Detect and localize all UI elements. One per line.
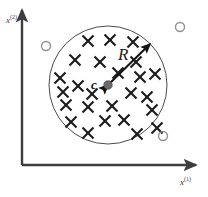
x-axis-label-superscript: (1) — [184, 176, 191, 182]
inlier-point — [83, 102, 94, 113]
inlier-point — [147, 105, 158, 116]
inlier-point — [66, 117, 77, 128]
inlier-point — [83, 36, 94, 47]
y-axis-label-superscript: (2) — [10, 14, 17, 20]
inlier-point — [128, 37, 139, 48]
figure-canvas: x(2) x(1) R c — [0, 0, 208, 197]
radius-label: R — [118, 46, 128, 63]
center-label: c — [91, 78, 97, 91]
inlier-point — [135, 72, 146, 83]
outlier-point — [42, 42, 51, 51]
inlier-point — [95, 57, 106, 68]
inlier-point — [142, 92, 153, 103]
radius-arrow-group — [108, 44, 150, 85]
inlier-point — [55, 73, 66, 84]
outlier-point — [176, 23, 185, 32]
inlier-point — [119, 115, 130, 126]
inlier-point — [61, 100, 72, 111]
inlier-point — [150, 69, 161, 80]
figure-svg — [0, 0, 208, 197]
inlier-point — [73, 81, 84, 92]
ball-center-dot — [104, 81, 112, 89]
x-axis-label: x(1) — [180, 176, 191, 187]
inlier-point — [58, 87, 69, 98]
radius-arrow-line — [108, 44, 150, 85]
inlier-point — [113, 68, 124, 79]
inlier-point — [105, 35, 116, 46]
ball-center-group — [104, 81, 112, 89]
inlier-point — [107, 101, 118, 112]
inlier-point — [70, 55, 81, 66]
inlier-point — [83, 128, 94, 139]
inlier-point — [126, 88, 137, 99]
y-axis-label: x(2) — [6, 14, 17, 25]
inlier-point — [100, 116, 111, 127]
